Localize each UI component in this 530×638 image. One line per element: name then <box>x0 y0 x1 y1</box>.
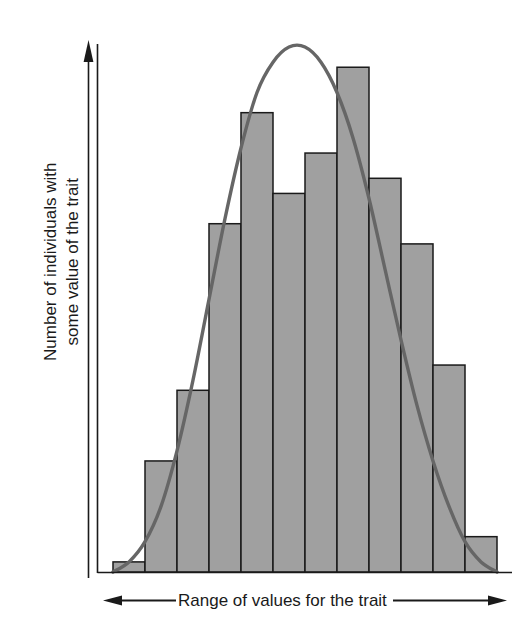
histogram-bar <box>305 153 337 572</box>
histogram-bar <box>465 537 497 572</box>
histogram-figure: Number of individuals with some value of… <box>0 0 530 638</box>
histogram-bar <box>273 193 305 572</box>
histogram-bar <box>241 113 273 572</box>
right-arrow-icon <box>488 596 507 606</box>
chart-canvas <box>0 0 530 638</box>
histogram-bar <box>369 178 401 572</box>
histogram-bar <box>177 390 209 572</box>
bar-series <box>113 67 497 572</box>
histogram-bar <box>145 461 177 572</box>
histogram-bar <box>433 365 465 572</box>
up-arrow-icon <box>84 40 94 62</box>
left-arrow-icon <box>103 596 122 606</box>
x-axis-label: Range of values for the trait <box>178 592 387 609</box>
